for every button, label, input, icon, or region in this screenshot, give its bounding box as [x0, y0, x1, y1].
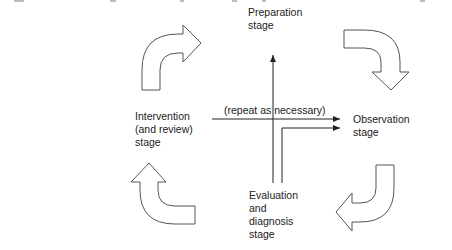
curved-arrow-down-left-icon [336, 165, 394, 231]
intervention-stage-label: Intervention (and review) stage [135, 110, 193, 149]
observation-stage-label: Observation stage [353, 113, 410, 139]
evaluation-stage-label: Evaluation and diagnosis stage [249, 189, 298, 241]
repeat-note: (repeat as necessary) [224, 104, 326, 117]
curved-arrow-up-right-icon [142, 25, 201, 90]
curved-arrow-left-up-icon [131, 163, 195, 224]
center-cross-lines [212, 55, 340, 183]
preparation-stage-label: Preparation stage [248, 6, 302, 32]
curved-arrow-right-down-icon [344, 30, 409, 90]
